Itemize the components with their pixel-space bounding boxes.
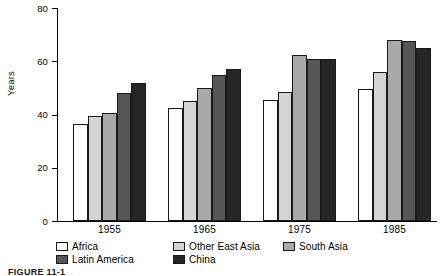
bar: [212, 75, 227, 221]
bar: [117, 93, 132, 221]
figure-caption: FIGURE 11-1: [8, 268, 65, 276]
chart-legend: AfricaOther East AsiaSouth Asia Latin Am…: [56, 240, 356, 266]
legend-item-label: China: [189, 255, 216, 265]
legend-item-label: South Asia: [299, 242, 348, 252]
legend-swatch-icon: [56, 255, 68, 264]
x-axis-tick-label: 1975: [251, 225, 348, 235]
bar: [73, 124, 88, 221]
legend-item[interactable]: Africa: [56, 240, 98, 253]
bar: [387, 40, 402, 221]
bar: [226, 69, 241, 221]
legend-item-label: Other East Asia: [189, 242, 260, 252]
bar: [278, 92, 293, 221]
legend-swatch-icon: [56, 242, 68, 251]
y-axis-tick-label: 20: [37, 164, 48, 174]
legend-item[interactable]: Latin America: [56, 253, 134, 266]
bar-group: [263, 8, 336, 221]
y-axis-tick: 60: [52, 61, 58, 62]
chart-figure: Years 020406080 1955196519751985 AfricaO…: [0, 0, 446, 276]
bar: [321, 59, 336, 221]
bar: [292, 55, 307, 221]
bar: [416, 48, 431, 221]
x-axis-tick-label: 1985: [346, 225, 443, 235]
x-axis-line: [57, 221, 437, 222]
bar: [402, 41, 417, 221]
legend-item-label: Latin America: [72, 255, 134, 265]
bar-group: [358, 8, 431, 221]
y-axis-tick-label: 40: [37, 110, 48, 120]
bar: [263, 100, 278, 221]
bar: [358, 89, 373, 221]
bar: [197, 88, 212, 221]
legend-row: Latin AmericaChina: [56, 253, 356, 266]
legend-item[interactable]: Other East Asia: [173, 240, 260, 253]
bar: [131, 83, 146, 221]
y-axis-tick: 40: [52, 115, 58, 116]
y-axis-tick: 20: [52, 168, 58, 169]
legend-item[interactable]: China: [173, 253, 216, 266]
legend-item-label: Africa: [72, 242, 98, 252]
bar-group: [168, 8, 241, 221]
bar: [88, 116, 103, 221]
bar: [102, 113, 117, 221]
bar: [373, 72, 388, 221]
y-axis-tick-label: 0: [43, 217, 48, 227]
bar: [168, 108, 183, 221]
y-axis-tick: 0: [52, 221, 58, 222]
y-axis-tick-label: 80: [37, 4, 48, 14]
bar-group: [73, 8, 146, 221]
x-axis-tick-label: 1965: [156, 225, 253, 235]
y-axis-title: Years: [6, 71, 16, 96]
plot-area: 020406080 1955196519751985: [57, 8, 437, 222]
legend-swatch-icon: [283, 242, 295, 251]
legend-item[interactable]: South Asia: [283, 240, 348, 253]
y-axis-tick-label: 60: [37, 57, 48, 67]
x-axis-tick-label: 1955: [61, 225, 158, 235]
legend-swatch-icon: [173, 255, 185, 264]
legend-row: AfricaOther East AsiaSouth Asia: [56, 240, 356, 253]
legend-swatch-icon: [173, 242, 185, 251]
bar: [307, 59, 322, 221]
y-axis-tick: 80: [52, 8, 58, 9]
bar: [183, 101, 198, 221]
